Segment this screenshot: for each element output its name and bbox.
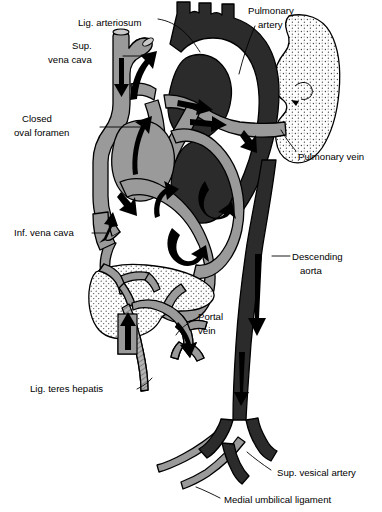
label-sup-vena-cava-line1: Sup. xyxy=(72,40,92,51)
label-pulmonary-artery-line1: Pulmonary xyxy=(248,5,294,16)
label-sup-vena-cava-line2: vena cava xyxy=(48,54,92,65)
label-lig-arteriosum: Lig. arteriosum xyxy=(78,17,141,28)
label-pulmonary-vein: Pulmonary vein xyxy=(298,151,364,162)
fetal-circulation-illustration: Lig. arteriosum Pulmonary artery Sup. ve… xyxy=(0,0,382,512)
label-descending-aorta-line1: Descending xyxy=(292,251,343,262)
label-medial-umbilical-ligament: Medial umbilical ligament xyxy=(224,494,332,505)
label-pulmonary-artery-line2: artery xyxy=(258,19,283,30)
anatomical-diagram-canvas: Lig. arteriosum Pulmonary artery Sup. ve… xyxy=(0,0,382,512)
label-closed-oval-foramen-line2: oval foramen xyxy=(14,127,69,138)
label-inf-vena-cava: Inf. vena cava xyxy=(14,227,74,238)
label-descending-aorta-line2: aorta xyxy=(300,265,323,276)
label-portal-vein-line1: Portal xyxy=(198,311,223,322)
label-lig-teres-hepatis: Lig. teres hepatis xyxy=(30,383,103,394)
label-portal-vein-line2: vein xyxy=(198,325,216,336)
label-sup-vesical-artery: Sup. vesical artery xyxy=(277,467,356,478)
label-closed-oval-foramen-line1: Closed xyxy=(22,113,52,124)
